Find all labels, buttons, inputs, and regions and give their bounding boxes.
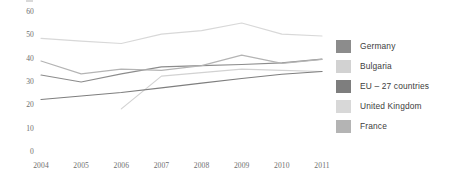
- series-line-eu-27-countries: [41, 72, 322, 100]
- x-tick-label: 2011: [305, 161, 339, 170]
- x-tick-label: 2008: [185, 161, 219, 170]
- y-tick-label: 10: [12, 124, 34, 133]
- legend-item[interactable]: United Kingdom: [336, 96, 462, 116]
- y-tick-label: 50: [12, 30, 34, 39]
- x-tick-label: 2010: [265, 161, 299, 170]
- x-tick-label: 2005: [64, 161, 98, 170]
- legend-label: United Kingdom: [360, 101, 422, 111]
- legend-item[interactable]: Bulgaria: [336, 56, 462, 76]
- legend-item[interactable]: EU – 27 countries: [336, 76, 462, 96]
- x-tick-label: 2006: [104, 161, 138, 170]
- series-line-france: [41, 55, 322, 74]
- x-tick-label: 2009: [225, 161, 259, 170]
- legend-item[interactable]: France: [336, 116, 462, 136]
- chart-screenshot: 6050403020100 20042005200620072008200920…: [0, 0, 462, 176]
- x-tick-label: 2007: [144, 161, 178, 170]
- plot-area: [0, 0, 330, 176]
- legend-label: France: [360, 121, 387, 131]
- legend-item[interactable]: Germany: [336, 36, 462, 56]
- y-tick-label: 20: [12, 100, 34, 109]
- x-tick-label: 2004: [24, 161, 58, 170]
- legend-label: Germany: [360, 41, 396, 51]
- legend-swatch: [336, 120, 351, 133]
- y-tick-label: 40: [12, 54, 34, 63]
- chart-legend: GermanyBulgariaEU – 27 countriesUnited K…: [336, 36, 462, 136]
- y-tick-label: 60: [12, 7, 34, 16]
- series-line-united-kingdom: [41, 23, 322, 44]
- legend-label: EU – 27 countries: [360, 81, 429, 91]
- line-chart: 6050403020100 20042005200620072008200920…: [0, 0, 330, 176]
- legend-swatch: [336, 60, 351, 73]
- y-tick-label: 0: [12, 147, 34, 156]
- legend-swatch: [336, 80, 351, 93]
- y-tick-label: 30: [12, 77, 34, 86]
- legend-label: Bulgaria: [360, 61, 392, 71]
- legend-swatch: [336, 40, 351, 53]
- legend-swatch: [336, 100, 351, 113]
